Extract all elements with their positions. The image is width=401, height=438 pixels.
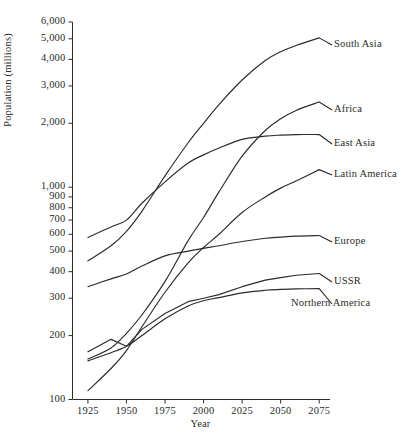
- leader-line: [319, 102, 332, 110]
- y-tick-label: 6,000: [12, 15, 66, 26]
- leader-line: [319, 236, 332, 242]
- x-tick-label: 1950: [104, 405, 148, 416]
- label-leader-lines: [319, 38, 332, 304]
- series-line-latin-america: [88, 170, 319, 391]
- y-tick-label: 4,000: [12, 52, 66, 63]
- series-line-northern-america: [88, 289, 319, 361]
- series-line-europe: [88, 236, 319, 287]
- y-tick-label: 500: [12, 244, 66, 255]
- series-label-latin-america: Latin America: [334, 168, 397, 179]
- series-label-europe: Europe: [334, 235, 366, 246]
- x-tick-label: 2000: [182, 405, 226, 416]
- x-tick-label: 2025: [220, 405, 264, 416]
- y-tick-label: 700: [12, 213, 66, 224]
- y-tick-label: 800: [12, 201, 66, 212]
- x-tick-label: 1925: [66, 405, 110, 416]
- series-line-south-asia: [88, 38, 319, 261]
- y-tick-label: 300: [12, 291, 66, 302]
- series-label-east-asia: East Asia: [334, 137, 375, 148]
- leader-line: [319, 170, 332, 175]
- series-label-africa: Africa: [334, 103, 362, 114]
- x-tick-label: 2075: [297, 405, 341, 416]
- series-line-africa: [88, 102, 319, 359]
- y-tick-label: 900: [12, 190, 66, 201]
- population-by-region-chart: Population (millions) Year 1002003004005…: [0, 0, 401, 438]
- y-tick-label: 400: [12, 265, 66, 276]
- y-tick-label: 3,000: [12, 79, 66, 90]
- x-tick-label: 2050: [259, 405, 303, 416]
- leader-line: [319, 38, 332, 45]
- y-tick-label: 100: [12, 393, 66, 404]
- y-tick-label: 5,000: [12, 32, 66, 43]
- x-tick-marks: [88, 400, 319, 404]
- series-line-ussr: [88, 274, 319, 352]
- series-label-ussr: USSR: [334, 275, 361, 286]
- y-tick-label: 1,000: [12, 180, 66, 191]
- y-tick-label: 200: [12, 329, 66, 340]
- leader-line: [319, 274, 332, 282]
- series-label-south-asia: South Asia: [334, 38, 382, 49]
- y-tick-label: 600: [12, 227, 66, 238]
- y-tick-marks: [69, 22, 73, 400]
- leader-line: [319, 135, 332, 144]
- series-paths: [88, 38, 319, 391]
- x-tick-label: 1975: [143, 405, 187, 416]
- series-label-northern-america: Northern America: [291, 297, 370, 308]
- y-tick-label: 2,000: [12, 116, 66, 127]
- axis-lines: [73, 22, 331, 400]
